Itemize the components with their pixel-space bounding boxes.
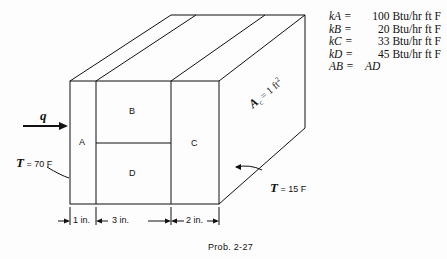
region-a-label: A xyxy=(79,137,85,147)
dimension-c: 2 in. xyxy=(186,215,203,225)
property-kc: kC =33 Btu/hr ft F xyxy=(329,35,441,48)
dimension-b: 3 in. xyxy=(112,215,129,225)
property-kd: kD =45 Btu/hr ft F xyxy=(329,48,441,61)
region-c-label: C xyxy=(191,138,198,148)
figure-caption: Prob. 2-27 xyxy=(208,242,253,252)
heat-flow-label: q xyxy=(40,108,47,124)
properties-list: kA =100 Btu/hr ft F kB =20 Btu/hr ft F k… xyxy=(329,10,441,73)
left-temperature-label: T = 70 F xyxy=(16,155,52,171)
heat-flow-arrow-icon xyxy=(59,122,68,130)
property-area-equality: AB =AD xyxy=(329,60,441,73)
property-kb: kB =20 Btu/hr ft F xyxy=(329,23,441,36)
region-b-label: B xyxy=(129,106,135,116)
property-ka: kA =100 Btu/hr ft F xyxy=(329,10,441,23)
dimension-a: 1 in. xyxy=(73,215,90,225)
right-temperature-label: T = 15 F xyxy=(270,180,306,196)
region-d-label: D xyxy=(129,168,136,178)
